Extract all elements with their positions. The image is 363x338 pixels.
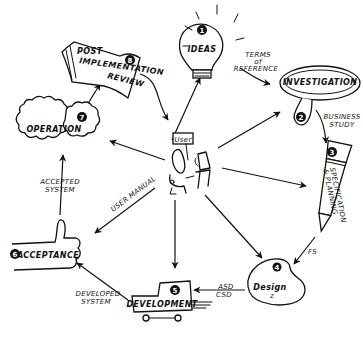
svg-text:z: z — [269, 292, 274, 300]
investigation-label: INVESTIGATION — [283, 78, 358, 87]
svg-text:5: 5 — [173, 287, 178, 295]
developed-system-label: DEVELOPED SYSTEM — [76, 290, 121, 306]
svg-text:2: 2 — [299, 114, 304, 122]
review-label-line1: POST — [77, 47, 103, 56]
svg-text:BUSINESS: BUSINESS — [323, 113, 360, 121]
svg-text:DEVELOPED: DEVELOPED — [76, 290, 121, 298]
stage-design[interactable]: 4 Design z — [248, 259, 305, 305]
svg-text:SYSTEM: SYSTEM — [45, 186, 75, 194]
person-at-computer-icon — [170, 149, 210, 194]
svg-text:4: 4 — [275, 264, 280, 272]
sdlc-diagram: 1 IDEAS TERMS of REFERENCE 2 INVESTIGATI… — [0, 0, 363, 338]
stage-acceptance[interactable]: 6 ACCEPTANCE — [10, 220, 80, 270]
ideas-label: IDEAS — [187, 45, 216, 54]
acceptance-label: ACCEPTANCE — [16, 251, 79, 260]
svg-text:3: 3 — [330, 149, 335, 157]
stage-development[interactable]: 5 DEVELOPMENT — [126, 281, 212, 321]
svg-text:ASD: ASD — [217, 283, 234, 291]
stage-review[interactable]: 8 POST IMPLEMENTATION REVIEW — [62, 42, 164, 98]
user-manual-label: USER MANUAL — [109, 175, 157, 214]
user-to-specification-arrow — [222, 168, 306, 186]
svg-text:STUDY: STUDY — [329, 121, 354, 129]
center-user[interactable]: User — [170, 133, 210, 194]
stage-specification[interactable]: 3 SPECIFICATION & PLANNING — [310, 141, 352, 234]
svg-text:CSD: CSD — [216, 291, 232, 299]
operation-label: OPERATION — [26, 125, 81, 134]
thumbs-up-icon — [12, 220, 80, 270]
user-label: User — [174, 136, 192, 144]
asd-csd-label: ASD CSD — [216, 283, 234, 299]
user-to-design-arrow — [205, 195, 262, 258]
design-label: Design — [253, 283, 286, 292]
user-to-investigation-arrow — [218, 112, 280, 148]
svg-text:REFERENCE: REFERENCE — [234, 65, 279, 73]
svg-text:1: 1 — [200, 27, 205, 35]
svg-text:SYSTEM: SYSTEM — [81, 298, 111, 306]
terms-of-reference-label: TERMS of REFERENCE — [234, 51, 279, 73]
development-label: DEVELOPMENT — [126, 300, 197, 309]
stage-operation[interactable]: 7 OPERATION — [16, 96, 99, 139]
svg-text:7: 7 — [80, 114, 85, 122]
svg-text:ACCEPTED: ACCEPTED — [39, 178, 80, 186]
user-to-ideas-arrow — [172, 78, 200, 140]
fs-label: FS — [308, 248, 317, 256]
business-study-label: BUSINESS STUDY — [323, 113, 360, 129]
user-to-operation-arrow — [110, 141, 165, 160]
accepted-system-label: ACCEPTED SYSTEM — [39, 178, 80, 194]
